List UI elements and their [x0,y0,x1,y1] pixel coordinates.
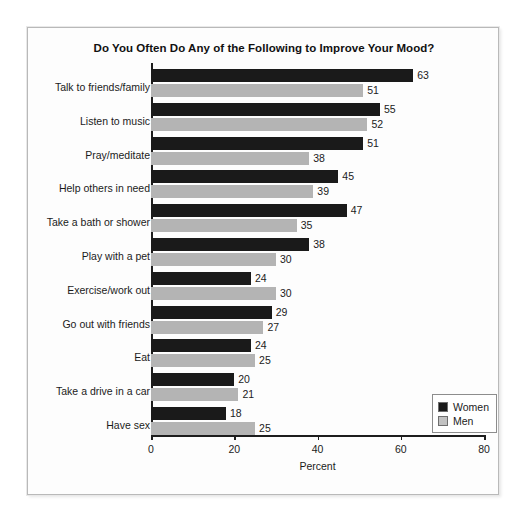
legend-item-men: Men [438,414,489,427]
category-label: Eat [0,351,150,363]
bar-women [151,137,363,150]
plot-area: Talk to friends/family6351Listen to musi… [151,63,484,435]
bar-group: Pray/meditate5138 [151,137,484,165]
bar-value-label: 39 [317,185,329,198]
legend-swatch-women-icon [438,402,448,412]
bar-group: Go out with friends2927 [151,306,484,334]
bar-group: Talk to friends/family6351 [151,69,484,97]
bar-men [151,84,363,97]
bar-value-label: 63 [417,69,429,82]
x-tick-label: 0 [148,443,154,455]
bar-women [151,272,251,285]
chart-page: Do You Often Do Any of the Following to … [0,0,524,520]
bar-value-label: 20 [238,373,250,386]
category-label: Pray/meditate [0,149,150,161]
bar-group: Play with a pet3830 [151,238,484,266]
legend-label-women: Women [453,401,489,413]
bar-value-label: 55 [384,103,396,116]
bar-value-label: 29 [276,306,288,319]
x-tick-label: 40 [312,443,324,455]
x-tick [401,435,403,440]
bar-men [151,253,276,266]
bar-men [151,185,313,198]
bar-women [151,407,226,420]
bar-value-label: 30 [280,253,292,266]
category-label: Play with a pet [0,250,150,262]
legend-swatch-men-icon [438,416,448,426]
bar-women [151,238,309,251]
bar-value-label: 24 [255,272,267,285]
bar-value-label: 38 [313,238,325,251]
category-label: Go out with friends [0,318,150,330]
bar-value-label: 45 [342,170,354,183]
bar-group: Eat2425 [151,339,484,367]
bar-group: Listen to music5552 [151,103,484,131]
category-label: Help others in need [0,182,150,194]
category-label: Talk to friends/family [0,81,150,93]
x-axis-title: Percent [151,460,484,472]
legend-label-men: Men [453,415,473,427]
category-label: Take a bath or shower [0,216,150,228]
bar-women [151,373,234,386]
bar-value-label: 25 [259,354,271,367]
bar-value-label: 52 [371,118,383,131]
bar-women [151,103,380,116]
bar-women [151,69,413,82]
category-label: Take a drive in a car [0,385,150,397]
x-tick-label: 60 [395,443,407,455]
bar-value-label: 47 [351,204,363,217]
bar-value-label: 21 [242,388,254,401]
x-tick [234,435,236,440]
bar-men [151,422,255,435]
bar-value-label: 51 [367,137,379,150]
bar-value-label: 35 [301,219,313,232]
bar-women [151,339,251,352]
bar-women [151,170,338,183]
legend-item-women: Women [438,400,489,413]
bar-women [151,204,347,217]
bar-value-label: 51 [367,84,379,97]
bar-value-label: 30 [280,287,292,300]
bar-men [151,118,367,131]
x-tick [484,435,486,440]
bar-men [151,152,309,165]
x-tick-label: 20 [228,443,240,455]
chart-frame: Do You Often Do Any of the Following to … [27,27,499,495]
bar-value-label: 27 [267,321,279,334]
bar-group: Help others in need4539 [151,170,484,198]
category-label: Have sex [0,419,150,431]
x-tick [318,435,320,440]
bar-women [151,306,272,319]
bar-men [151,321,263,334]
bar-group: Take a bath or shower4735 [151,204,484,232]
chart-legend: Women Men [432,394,497,433]
bar-men [151,388,238,401]
category-label: Listen to music [0,115,150,127]
bar-men [151,354,255,367]
page-title: Do You Often Do Any of the Following to … [28,42,500,54]
bar-value-label: 25 [259,422,271,435]
x-tick-label: 80 [478,443,490,455]
x-tick [151,435,153,440]
bar-value-label: 38 [313,152,325,165]
bar-value-label: 18 [230,407,242,420]
bar-men [151,219,297,232]
bar-men [151,287,276,300]
bar-value-label: 24 [255,339,267,352]
category-label: Exercise/work out [0,284,150,296]
bar-group: Exercise/work out2430 [151,272,484,300]
